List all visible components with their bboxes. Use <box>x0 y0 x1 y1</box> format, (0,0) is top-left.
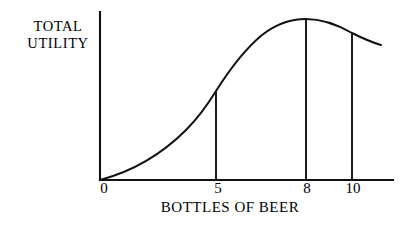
y-axis-title: TOTAL UTILITY <box>18 18 98 52</box>
utility-curve <box>100 19 381 180</box>
x-tick-label-10: 10 <box>341 180 365 197</box>
figure-container: TOTAL UTILITY 0 5 8 10 BOTTLES OF BEER <box>0 0 414 228</box>
x-tick-label-5: 5 <box>206 180 230 197</box>
x-tick-label-8: 8 <box>295 180 319 197</box>
x-axis-title: BOTTLES OF BEER <box>120 199 340 216</box>
x-tick-label-0: 0 <box>92 180 116 197</box>
